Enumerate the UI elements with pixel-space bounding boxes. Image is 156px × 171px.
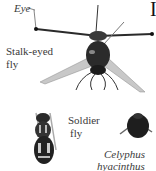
celyphus-illustration (120, 113, 152, 138)
soldier-fly-label-line2: fly (70, 127, 82, 139)
stalk-eyed-fly-label-line2: fly (6, 58, 18, 70)
stalk-eyed-fly-label-line1: Stalk-eyed (6, 45, 53, 57)
celyphus-label-line2: hyacinthus (97, 160, 145, 171)
soldier-fly-label-line1: Soldier (68, 114, 100, 126)
celyphus-label-line1: Celyphus (104, 148, 145, 160)
soldier-fly-illustration (34, 113, 56, 164)
insect-illustrations (0, 0, 156, 171)
eye-label: Eye (14, 2, 30, 14)
